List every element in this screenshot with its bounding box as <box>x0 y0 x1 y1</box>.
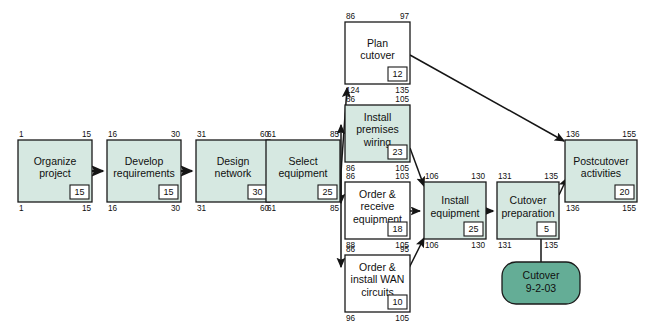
late-finish-value: 15 <box>82 204 92 213</box>
node-label-line: equipment <box>278 167 327 179</box>
early-finish-value: 97 <box>400 12 410 21</box>
early-start-value: 86 <box>346 172 356 181</box>
node-postcutover-activities[interactable]: Postcutoveractivities20136155136155 <box>565 130 637 214</box>
early-start-value: 16 <box>108 130 118 139</box>
early-finish-value: 130 <box>471 172 485 181</box>
node-label-line: cutover <box>360 49 395 61</box>
node-label-line: receive <box>361 200 395 212</box>
early-start-value: 106 <box>425 172 439 181</box>
node-install-premises-wiring[interactable]: Installpremiseswiring238610586105 <box>345 95 410 174</box>
node-label-line: Design <box>217 155 250 167</box>
node-label-line: Plan <box>367 37 388 49</box>
duration-value: 25 <box>322 187 332 197</box>
node-install-equipment[interactable]: Installequipment25106130106130 <box>424 172 486 251</box>
node-design-network[interactable]: Designnetwork3031603160 <box>196 130 270 214</box>
edge-plan-cutover-to-postcutover <box>410 55 564 141</box>
node-label-line: wiring <box>363 136 392 148</box>
pert-diagram-canvas: Organizeproject15115115Developrequiremen… <box>0 0 650 336</box>
node-label-line: project <box>39 167 71 179</box>
node-label-line: install WAN <box>351 273 405 285</box>
milestone-cutover-milestone[interactable]: Cutover9-2-03 <box>502 262 580 304</box>
node-label-line: network <box>215 167 253 179</box>
late-finish-value: 85 <box>330 204 340 213</box>
node-label-line: Order & <box>359 261 396 273</box>
late-finish-value: 155 <box>622 204 636 213</box>
node-label-line: Organize <box>34 155 77 167</box>
late-finish-value: 135 <box>544 241 558 250</box>
early-finish-value: 30 <box>171 130 181 139</box>
late-finish-value: 30 <box>171 204 181 213</box>
node-label-line: requirements <box>113 167 174 179</box>
duration-value: 20 <box>619 187 629 197</box>
late-start-value: 96 <box>346 314 356 323</box>
node-cutover-preparation[interactable]: Cutoverpreparation5131135131135 <box>497 172 559 251</box>
edge-install-wiring-to-install-equipment <box>410 148 424 186</box>
duration-value: 18 <box>392 224 402 234</box>
early-start-value: 86 <box>346 12 356 21</box>
late-start-value: 136 <box>566 204 580 213</box>
node-label-line: Order & <box>359 188 396 200</box>
early-start-value: 136 <box>566 130 580 139</box>
node-label-line: activities <box>581 167 621 179</box>
node-order-install-wan-circuits[interactable]: Order &install WANcircuits10869596105 <box>345 245 410 324</box>
duration-value: 12 <box>392 69 402 79</box>
node-label-line: Install <box>441 194 468 206</box>
milestone-label-line: Cutover <box>523 269 560 281</box>
early-start-value: 86 <box>346 245 356 254</box>
late-start-value: 31 <box>197 204 207 213</box>
node-order-receive-equipment[interactable]: Order &receiveequipment188610388105 <box>345 172 410 251</box>
milestone-label-line: 9-2-03 <box>526 282 557 294</box>
node-label-line: premises <box>356 123 399 135</box>
network-diagram-svg: Organizeproject15115115Developrequiremen… <box>0 0 650 336</box>
early-finish-value: 103 <box>395 172 409 181</box>
late-start-value: 106 <box>425 241 439 250</box>
early-start-value: 61 <box>267 130 277 139</box>
early-finish-value: 95 <box>400 245 410 254</box>
duration-value: 25 <box>468 224 478 234</box>
node-label-line: Cutover <box>510 194 547 206</box>
late-finish-value: 130 <box>471 241 485 250</box>
duration-value: 10 <box>392 297 402 307</box>
node-label-line: Install <box>364 111 391 123</box>
node-develop-requirements[interactable]: Developrequirements1516301630 <box>107 130 181 214</box>
early-start-value: 1 <box>19 130 24 139</box>
node-plan-cutover[interactable]: Plancutover128697124135 <box>345 12 410 96</box>
node-label-line: Select <box>288 155 317 167</box>
early-finish-value: 15 <box>82 130 92 139</box>
duration-value: 30 <box>252 187 262 197</box>
node-label-line: Postcutover <box>573 155 629 167</box>
early-start-value: 131 <box>498 172 512 181</box>
late-start-value: 61 <box>267 204 277 213</box>
early-finish-value: 135 <box>544 172 558 181</box>
duration-value: 23 <box>392 147 402 157</box>
late-finish-value: 105 <box>395 314 409 323</box>
node-label-line: Develop <box>125 155 164 167</box>
node-organize-project[interactable]: Organizeproject15115115 <box>18 130 92 214</box>
node-label-line: preparation <box>501 207 554 219</box>
early-start-value: 31 <box>197 130 207 139</box>
milestone-layer: Cutover9-2-03 <box>502 262 580 304</box>
late-start-value: 1 <box>19 204 24 213</box>
duration-value: 15 <box>163 187 173 197</box>
node-label-line: equipment <box>430 207 479 219</box>
early-finish-value: 155 <box>622 130 636 139</box>
node-select-equipment[interactable]: Selectequipment2561856185 <box>266 130 340 214</box>
early-start-value: 86 <box>346 95 356 104</box>
early-finish-value: 105 <box>395 95 409 104</box>
late-start-value: 131 <box>498 241 512 250</box>
late-start-value: 16 <box>108 204 118 213</box>
duration-value: 15 <box>74 187 84 197</box>
early-finish-value: 85 <box>330 130 340 139</box>
duration-value: 5 <box>544 224 549 234</box>
